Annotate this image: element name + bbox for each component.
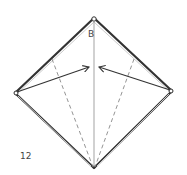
origami-diagram: B 12 <box>0 0 187 175</box>
diagram-canvas: B 12 <box>0 0 187 175</box>
diamond-outline <box>15 18 172 168</box>
point-label-b: B <box>88 29 94 39</box>
valley-fold-right <box>95 59 134 167</box>
vertex-top <box>92 17 96 21</box>
step-number: 12 <box>20 151 31 161</box>
valley-fold-left <box>52 59 93 167</box>
